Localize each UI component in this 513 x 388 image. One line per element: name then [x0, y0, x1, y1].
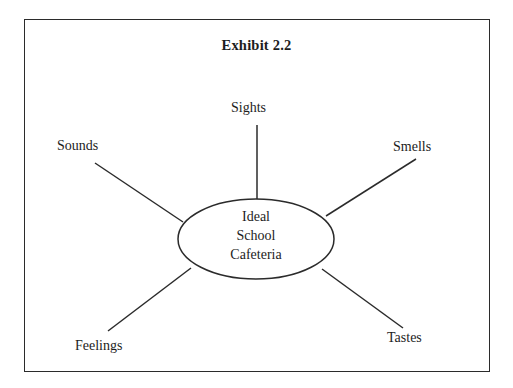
spoke-line-smells	[326, 159, 416, 216]
spoke-line-tastes	[322, 269, 403, 328]
exhibit-title: Exhibit 2.2	[0, 37, 513, 54]
center-node-line-1: Ideal	[178, 207, 334, 226]
node-label-sights: Sights	[231, 100, 266, 116]
node-label-tastes: Tastes	[387, 330, 422, 346]
center-node-line-2: School	[178, 226, 334, 245]
diagram-canvas	[0, 0, 513, 388]
node-label-smells: Smells	[393, 139, 431, 155]
node-label-feelings: Feelings	[75, 338, 122, 354]
center-node-text: Ideal School Cafeteria	[178, 207, 334, 264]
spoke-line-feelings	[108, 268, 191, 331]
center-node-line-3: Cafeteria	[178, 245, 334, 264]
node-label-sounds: Sounds	[57, 138, 98, 154]
exhibit-figure: Exhibit 2.2 Ideal School Cafeteria Sight…	[0, 0, 513, 388]
spoke-line-sounds	[95, 163, 183, 222]
